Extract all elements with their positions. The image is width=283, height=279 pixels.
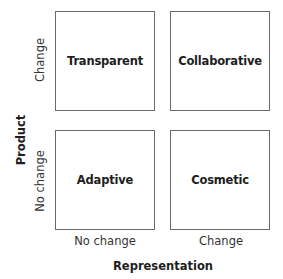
quadrant-label: Cosmetic: [191, 173, 249, 187]
column-label-no-change: No change: [74, 234, 136, 248]
quadrant-adaptive: Adaptive: [55, 130, 155, 230]
row-label-no-change: No change: [33, 150, 47, 212]
x-axis-title: Representation: [113, 259, 213, 273]
quadrant-label: Collaborative: [178, 54, 262, 68]
quadrant-transparent: Transparent: [55, 11, 155, 111]
y-axis-title: Product: [14, 115, 28, 166]
quadrant-label: Adaptive: [77, 173, 133, 187]
quadrant-collaborative: Collaborative: [170, 11, 270, 111]
row-label-change: Change: [33, 38, 47, 82]
column-label-change: Change: [199, 234, 243, 248]
quadrant-label: Transparent: [67, 54, 143, 68]
quadrant-cosmetic: Cosmetic: [170, 130, 270, 230]
